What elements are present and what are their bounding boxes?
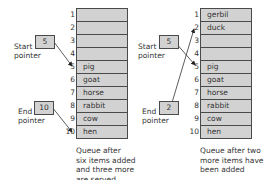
caption-right: Queue after two more items have been add… bbox=[200, 146, 263, 175]
queue-cell: 8rabbit bbox=[77, 100, 127, 113]
caption-line: six items added bbox=[76, 156, 136, 166]
queue-cell: 2duck bbox=[201, 22, 251, 35]
cell-index: 6 bbox=[189, 74, 199, 86]
queue-cell: 2 bbox=[77, 22, 127, 35]
cell-index: 9 bbox=[189, 113, 199, 125]
queue-cell: 4 bbox=[77, 48, 127, 61]
cell-index: 10 bbox=[65, 126, 75, 138]
cell-index: 1 bbox=[65, 9, 75, 21]
cell-index: 3 bbox=[189, 35, 199, 47]
cell-index: 3 bbox=[65, 35, 75, 47]
cell-value: cow bbox=[83, 114, 98, 123]
cell-value: gerbil bbox=[207, 10, 228, 19]
queue-cell: 4 bbox=[201, 48, 251, 61]
cell-value: horse bbox=[207, 88, 228, 97]
caption-line: more items have bbox=[200, 156, 263, 166]
start-pointer-box-right: 5 bbox=[159, 35, 179, 49]
queue-cell: 6goat bbox=[77, 74, 127, 87]
label-line: pointer bbox=[18, 116, 45, 125]
queue-cell: 9cow bbox=[77, 113, 127, 126]
cell-value: pig bbox=[207, 62, 219, 71]
cell-index: 7 bbox=[189, 87, 199, 99]
cell-index: 8 bbox=[189, 100, 199, 112]
queue-cell: 10hen bbox=[77, 126, 127, 138]
cell-index: 9 bbox=[65, 113, 75, 125]
cell-index: 4 bbox=[65, 48, 75, 60]
queue-cell: 1 bbox=[77, 9, 127, 22]
queue-cell: 7horse bbox=[201, 87, 251, 100]
end-pointer-box-right: 2 bbox=[159, 101, 179, 115]
end-pointer-box-left: 10 bbox=[34, 101, 54, 115]
queue-cell: 7horse bbox=[77, 87, 127, 100]
caption-left: Queue after six items added and three mo… bbox=[76, 146, 136, 180]
cell-value: rabbit bbox=[207, 101, 229, 110]
caption-line: are served bbox=[76, 175, 136, 181]
queue-cell: 10hen bbox=[201, 126, 251, 138]
cell-value: goat bbox=[207, 75, 224, 84]
cell-value: rabbit bbox=[83, 101, 105, 110]
cell-index: 4 bbox=[189, 48, 199, 60]
cell-value: cow bbox=[207, 114, 222, 123]
cell-value: duck bbox=[207, 23, 225, 32]
label-line: pointer bbox=[14, 51, 41, 60]
caption-line: Queue after two bbox=[200, 146, 263, 156]
queue-cell: 1gerbil bbox=[201, 9, 251, 22]
cell-value: horse bbox=[83, 88, 104, 97]
cell-value: goat bbox=[83, 75, 100, 84]
queue-cell: 9cow bbox=[201, 113, 251, 126]
caption-line: Queue after bbox=[76, 146, 136, 156]
cell-index: 10 bbox=[189, 126, 199, 138]
queue-cell: 3 bbox=[77, 35, 127, 48]
cell-index: 5 bbox=[65, 61, 75, 73]
cell-index: 1 bbox=[189, 9, 199, 21]
queue-left: 1 2 3 4 5pig 6goat 7horse 8rabbit 9cow 1… bbox=[76, 8, 128, 139]
cell-value: hen bbox=[207, 127, 221, 136]
cell-index: 7 bbox=[65, 87, 75, 99]
queue-cell: 3 bbox=[201, 35, 251, 48]
cell-value: pig bbox=[83, 62, 95, 71]
queue-cell: 6goat bbox=[201, 74, 251, 87]
queue-cell: 8rabbit bbox=[201, 100, 251, 113]
cell-index: 2 bbox=[189, 22, 199, 34]
label-line: pointer bbox=[138, 51, 165, 60]
queue-right: 1gerbil 2duck 3 4 5pig 6goat 7horse 8rab… bbox=[200, 8, 252, 139]
cell-index: 8 bbox=[65, 100, 75, 112]
start-pointer-box-left: 5 bbox=[35, 35, 55, 49]
queue-cell: 5pig bbox=[77, 61, 127, 74]
cell-index: 2 bbox=[65, 22, 75, 34]
cell-index: 5 bbox=[189, 61, 199, 73]
caption-line: been added bbox=[200, 165, 263, 175]
queue-cell: 5pig bbox=[201, 61, 251, 74]
cell-value: hen bbox=[83, 127, 97, 136]
cell-index: 6 bbox=[65, 74, 75, 86]
caption-line: and three more bbox=[76, 165, 136, 175]
label-line: pointer bbox=[142, 116, 169, 125]
